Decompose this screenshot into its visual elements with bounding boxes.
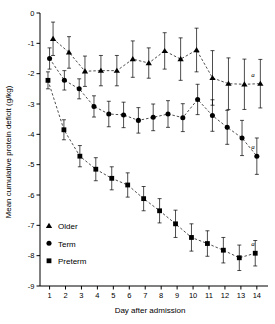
y-axis-tick-label: 0 [30, 9, 34, 18]
x-axis-title: Day after admission [115, 306, 186, 315]
y-axis-tick-label: -2 [28, 69, 35, 78]
data-point-square [173, 221, 178, 226]
data-point-circle [46, 241, 51, 246]
data-point-circle [136, 118, 141, 123]
annotation-significance: a [251, 143, 255, 151]
data-point-circle [106, 111, 111, 116]
series-line-older [53, 39, 260, 85]
data-point-triangle [130, 56, 136, 61]
data-point-square [93, 167, 98, 172]
x-axis-tick-label: 12 [221, 291, 229, 300]
data-point-circle [225, 125, 230, 130]
series-line-preterm [48, 80, 255, 257]
x-axis-tick-label: 1 [47, 291, 51, 300]
data-point-square [109, 176, 114, 181]
x-axis-tick-label: 10 [189, 291, 197, 300]
data-point-triangle [98, 68, 104, 73]
data-point-triangle [66, 49, 72, 54]
legend-label: Preterm [58, 257, 87, 266]
data-point-triangle [177, 56, 183, 61]
annotation-significance: a [251, 71, 255, 79]
series-older [50, 22, 264, 109]
data-point-square [237, 255, 242, 260]
legend-label: Older [58, 222, 78, 231]
x-axis-tick-label: 13 [237, 291, 245, 300]
data-point-triangle [193, 47, 199, 52]
data-point-circle [180, 115, 185, 120]
data-point-triangle [50, 36, 56, 41]
data-point-triangle [257, 81, 263, 86]
data-point-triangle [114, 68, 120, 73]
data-point-triangle [146, 60, 152, 65]
y-axis-tick-label: -1 [28, 39, 35, 48]
data-point-square [77, 154, 82, 159]
y-axis-tick-label: -8 [28, 251, 35, 260]
y-axis-tick-label: -4 [28, 130, 35, 139]
data-point-triangle [162, 48, 168, 53]
y-axis-tick-label: -9 [28, 282, 35, 291]
data-point-square [62, 127, 67, 132]
legend-item-preterm[interactable]: Preterm [47, 257, 87, 266]
x-axis-tick-label: 7 [143, 291, 147, 300]
x-axis-tick-label: 4 [95, 291, 99, 300]
legend-item-older[interactable]: Older [46, 222, 78, 231]
series-preterm [46, 72, 258, 271]
data-series-group [46, 22, 264, 270]
data-point-square [141, 196, 146, 201]
data-point-triangle [241, 81, 247, 86]
data-point-square [221, 248, 226, 253]
data-point-square [205, 241, 210, 246]
data-point-circle [195, 97, 200, 102]
y-axis: 0-1-2-3-4-5-6-7-8-9 [28, 9, 40, 291]
data-point-square [253, 251, 258, 256]
data-point-circle [240, 135, 245, 140]
data-point-circle [151, 115, 156, 120]
data-point-circle [210, 113, 215, 118]
chart-legend: OlderTermPreterm [46, 222, 87, 266]
data-point-circle [165, 111, 170, 116]
annotation-significance: a [251, 240, 255, 248]
data-point-triangle [225, 81, 231, 86]
data-point-circle [77, 86, 82, 91]
data-point-square [157, 208, 162, 213]
legend-item-term[interactable]: Term [46, 240, 76, 249]
y-axis-tick-label: -3 [28, 100, 35, 109]
y-axis-tick-label: -5 [28, 160, 35, 169]
y-axis-title: Mean cumulative protein deficit (g/kg) [4, 85, 13, 218]
x-axis-tick-label: 5 [111, 291, 115, 300]
x-axis-tick-label: 14 [253, 291, 261, 300]
data-point-circle [121, 112, 126, 117]
x-axis-tick-label: 8 [159, 291, 163, 300]
data-point-circle [254, 154, 259, 159]
legend-label: Term [58, 240, 76, 249]
y-axis-tick-label: -6 [28, 191, 35, 200]
x-axis-tick-label: 3 [79, 291, 83, 300]
chart-figure: 0-1-2-3-4-5-6-7-8-9 1234567891011121314 … [0, 0, 275, 324]
x-axis-tick-label: 9 [175, 291, 179, 300]
data-point-triangle [209, 75, 215, 80]
x-axis-tick-label: 6 [127, 291, 131, 300]
x-axis-tick-label: 2 [63, 291, 67, 300]
data-point-square [46, 78, 51, 83]
x-axis-tick-label: 11 [205, 291, 213, 300]
significance-annotations: aaa [251, 71, 255, 249]
data-point-triangle [46, 223, 52, 228]
x-axis: 1234567891011121314 [40, 286, 268, 300]
data-point-circle [62, 78, 67, 83]
y-axis-tick-label: -7 [28, 221, 35, 230]
protein-deficit-line-chart: 0-1-2-3-4-5-6-7-8-9 1234567891011121314 … [0, 0, 275, 324]
data-point-circle [47, 56, 52, 61]
data-point-square [125, 183, 130, 188]
data-point-square [47, 258, 52, 263]
data-point-square [189, 235, 194, 240]
data-point-circle [91, 104, 96, 109]
